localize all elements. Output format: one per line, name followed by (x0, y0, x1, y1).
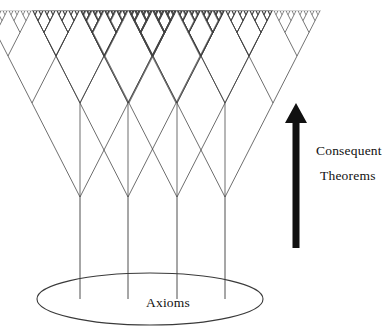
tree-branch (40, 12, 42, 15)
tree-branch (200, 33, 212, 57)
tree-branch (189, 33, 201, 57)
tree-branch (243, 15, 246, 21)
tree-branch (110, 10, 111, 12)
tree-branch (276, 15, 279, 21)
tree-branch (267, 15, 270, 21)
binary-tree-branches (0, 10, 320, 197)
tree-branch (207, 21, 213, 33)
tree-branch (8, 56, 32, 103)
tree-branch (13, 10, 14, 12)
tree-branch (183, 21, 189, 33)
axioms-label: Axioms (146, 295, 190, 311)
tree-branch (165, 21, 171, 33)
tree-branch (49, 10, 50, 12)
tree-branch (61, 10, 62, 12)
tree-branch (251, 10, 252, 12)
tree-branch (86, 10, 87, 12)
tree-branch (89, 10, 90, 12)
consequent-label: Consequent (316, 143, 382, 159)
tree-branch (215, 10, 216, 12)
tree-branch (228, 12, 230, 15)
tree-branch (246, 12, 248, 15)
tree-branch (22, 10, 23, 12)
tree-branch (10, 12, 12, 15)
tree-branch (64, 12, 66, 15)
axiom-stem-lines (80, 197, 225, 299)
tree-branch (206, 21, 212, 33)
tree-branch (317, 10, 318, 12)
tree-branch (0, 21, 2, 33)
tree-branch (269, 10, 270, 12)
tree-branch (125, 10, 126, 12)
tree-branch (258, 12, 260, 15)
tree-branch (164, 21, 170, 33)
tree-branch (37, 10, 38, 12)
tree-branch (93, 33, 105, 57)
tree-branch (137, 10, 138, 12)
tree-branch (237, 33, 249, 57)
tree-branch (177, 56, 201, 103)
tree-branch (52, 12, 54, 15)
tree-branch (2, 15, 5, 21)
tree-branch (8, 33, 20, 57)
tree-branch (29, 12, 31, 15)
tree-branch (291, 15, 294, 21)
tree-branch (237, 21, 243, 33)
tree-branch (293, 10, 294, 12)
tree-branch (104, 56, 128, 103)
deduction-tree-svg (0, 0, 387, 332)
tree-branch (287, 12, 289, 15)
tree-branch (86, 21, 92, 33)
tree-branch (128, 56, 152, 103)
tree-branch (248, 10, 249, 12)
tree-branch (34, 10, 35, 12)
tree-branch (153, 33, 165, 57)
tree-branch (73, 10, 74, 12)
tree-branch (140, 10, 141, 12)
tree-branch (284, 10, 285, 12)
tree-branch (270, 12, 272, 15)
tree-branch (234, 12, 236, 15)
tree-branch (252, 15, 255, 21)
tree-branch (46, 12, 48, 15)
tree-branch (83, 10, 84, 12)
tree-branch (231, 15, 234, 21)
tree-branch (62, 21, 68, 33)
tree-branch (255, 21, 261, 33)
tree-branch (288, 12, 290, 15)
tree-branch (22, 12, 24, 15)
tree-branch (182, 21, 188, 33)
tree-branch (113, 10, 114, 12)
tree-branch (305, 12, 307, 15)
tree-branch (111, 21, 117, 33)
tree-branch (128, 103, 176, 197)
tree-branch (20, 21, 26, 33)
tree-branch (176, 10, 177, 12)
tree-branch (58, 12, 60, 15)
tree-branch (52, 10, 53, 12)
tree-branch (31, 10, 32, 12)
tree-branch (35, 15, 38, 21)
tree-branch (141, 21, 147, 33)
tree-branch (79, 10, 80, 12)
tree-branch (297, 33, 309, 57)
tree-branch (212, 10, 213, 12)
tree-branch (158, 10, 159, 12)
tree-branch (14, 21, 20, 33)
tree-branch (264, 12, 266, 15)
tree-branch (55, 10, 56, 12)
tree-branch (269, 12, 271, 15)
tree-branch (70, 12, 72, 15)
tree-branch (34, 12, 36, 15)
tree-branch (32, 103, 80, 197)
tree-branch (233, 10, 234, 12)
tree-branch (228, 15, 231, 21)
tree-branch (201, 56, 225, 103)
tree-branch (200, 10, 201, 12)
tree-branch (260, 10, 261, 12)
tree-branch (129, 56, 153, 103)
tree-branch (155, 10, 156, 12)
tree-branch (0, 33, 8, 57)
tree-branch (28, 12, 30, 15)
tree-branch (188, 33, 200, 57)
